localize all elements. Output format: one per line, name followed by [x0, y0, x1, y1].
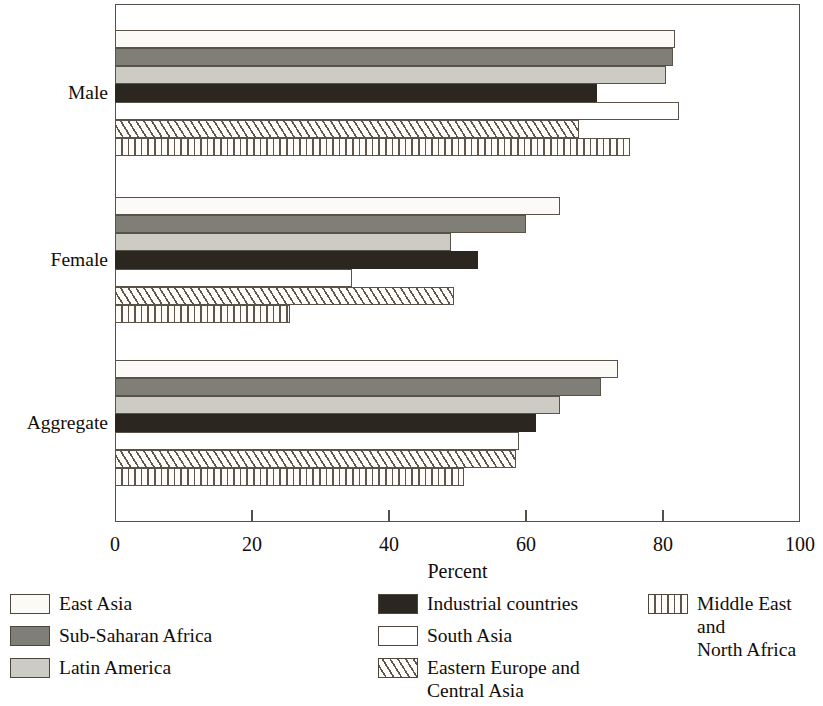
legend-label: Middle East andNorth Africa — [697, 592, 823, 661]
x-tick-label: 60 — [516, 534, 536, 554]
category-axis-labels: MaleFemaleAggregate — [0, 4, 108, 522]
bar — [115, 414, 536, 432]
x-axis-title: Percent — [115, 560, 800, 583]
x-tick-label: 80 — [653, 534, 673, 554]
legend-swatch-south-asia — [378, 626, 418, 646]
legend-swatch-middle-east — [648, 594, 688, 614]
legend-label: Industrial countries — [427, 592, 578, 615]
legend-swatch-industrial — [378, 594, 418, 614]
legend-label: South Asia — [427, 624, 512, 647]
bar — [115, 269, 352, 287]
bar — [115, 66, 666, 84]
bar — [115, 432, 519, 450]
bar — [115, 30, 675, 48]
legend-swatch-sub-saharan — [10, 626, 50, 646]
x-tick-label: 100 — [785, 534, 815, 554]
bar — [115, 287, 454, 305]
legend-column-2: Industrial countriesSouth AsiaEastern Eu… — [378, 592, 648, 706]
legend-swatch-eastern-europe — [378, 658, 418, 678]
x-tick-mark — [251, 510, 253, 522]
x-tick-label: 40 — [379, 534, 399, 554]
x-tick-label: 0 — [110, 534, 120, 554]
bar-group — [115, 197, 800, 323]
bars-layer — [115, 4, 800, 522]
bar-group — [115, 360, 800, 486]
legend-column-1: East AsiaSub-Saharan AfricaLatin America — [10, 592, 370, 688]
bar — [115, 251, 478, 269]
legend-item: Eastern Europe andCentral Asia — [378, 656, 648, 702]
bar — [115, 138, 630, 156]
bar — [115, 120, 579, 138]
bar — [115, 48, 673, 66]
legend-swatch-latin-america — [10, 658, 50, 678]
legend-label: East Asia — [59, 592, 132, 615]
legend-item: East Asia — [10, 592, 370, 615]
category-label-female: Female — [0, 250, 108, 270]
bar — [115, 450, 516, 468]
bar-chart-figure: MaleFemaleAggregate 020406080100 Percent… — [0, 0, 823, 706]
legend-item: South Asia — [378, 624, 648, 647]
legend-label: Sub-Saharan Africa — [59, 624, 212, 647]
bar — [115, 396, 560, 414]
legend-item: Industrial countries — [378, 592, 648, 615]
category-label-aggregate: Aggregate — [0, 413, 108, 433]
bar — [115, 360, 618, 378]
legend-swatch-east-asia — [10, 594, 50, 614]
bar — [115, 84, 597, 102]
x-tick-mark — [388, 510, 390, 522]
bar-group — [115, 30, 800, 156]
x-tick-mark — [662, 510, 664, 522]
bar — [115, 468, 464, 486]
x-tick-mark — [525, 510, 527, 522]
category-label-male: Male — [0, 83, 108, 103]
legend-item: Sub-Saharan Africa — [10, 624, 370, 647]
x-tick-label: 20 — [242, 534, 262, 554]
bar — [115, 215, 526, 233]
legend-column-3: Middle East andNorth Africa — [648, 592, 823, 670]
legend-item: Latin America — [10, 656, 370, 679]
legend-label: Latin America — [59, 656, 171, 679]
legend: East AsiaSub-Saharan AfricaLatin America… — [0, 592, 823, 706]
bar — [115, 233, 451, 251]
legend-label: Eastern Europe andCentral Asia — [427, 656, 580, 702]
bar — [115, 197, 560, 215]
legend-item: Middle East andNorth Africa — [648, 592, 823, 661]
bar — [115, 378, 601, 396]
bar — [115, 102, 679, 120]
bar — [115, 305, 290, 323]
